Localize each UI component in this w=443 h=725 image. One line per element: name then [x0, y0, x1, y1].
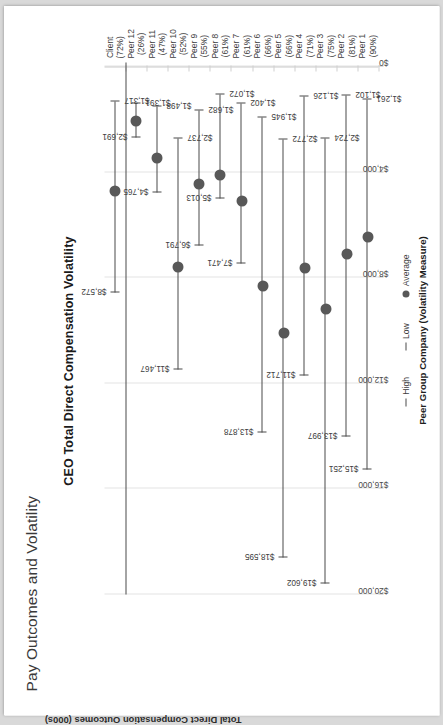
average-marker[interactable] — [278, 327, 289, 338]
low-value-label: $2,724 — [334, 132, 359, 141]
high-value-label: $19,602 — [287, 578, 317, 587]
x-axis-category-label: Peer 1(90%) — [356, 33, 377, 58]
rotated-slide-wrapper: Pay Outcomes and Volatility CEO Total Di… — [4, 6, 439, 715]
chart-plot-area: $20,000$16,000$12,000$8,000$4,000$0$15,2… — [104, 66, 378, 594]
category-volatility: (71%) — [304, 34, 314, 56]
low-cap-marker — [194, 109, 203, 110]
high-cap-marker — [341, 435, 350, 436]
x-axis-category-label: Peer 10(52%) — [167, 29, 188, 58]
category-separator — [273, 65, 274, 71]
grid-line — [104, 382, 378, 383]
average-marker[interactable] — [172, 261, 183, 272]
range-line — [156, 106, 157, 192]
average-marker[interactable] — [130, 115, 141, 126]
category-volatility: (52%) — [177, 32, 187, 54]
category-name: Peer 8 — [209, 33, 219, 58]
legend-item-average[interactable]: Average — [400, 254, 410, 297]
category-name: Peer 11 — [146, 29, 156, 58]
category-separator — [146, 65, 147, 71]
average-marker[interactable] — [109, 185, 120, 196]
x-axis-title: Peer Group Company (Volatility Measure) — [416, 66, 427, 594]
average-marker[interactable] — [341, 248, 352, 259]
low-cap-marker — [110, 100, 119, 101]
low-cap-marker — [215, 93, 224, 94]
low-value-label: $1,682 — [208, 104, 233, 113]
range-line — [345, 95, 346, 435]
legend-label: Low — [400, 323, 410, 339]
category-volatility: (66%) — [262, 34, 272, 56]
average-marker[interactable] — [236, 195, 247, 206]
low-value-label: $1,126 — [313, 90, 338, 99]
range-line — [240, 103, 241, 263]
x-axis-category-label: Peer 6(66%) — [251, 33, 272, 58]
high-cap-marker — [257, 431, 266, 432]
average-marker[interactable] — [320, 303, 331, 314]
average-marker[interactable] — [362, 231, 373, 242]
y-axis-tick-label: $0 — [379, 57, 388, 67]
category-name: Peer 7 — [230, 33, 240, 58]
average-marker[interactable] — [214, 169, 225, 180]
low-value-label: $2,772 — [292, 133, 317, 142]
high-cap-marker — [131, 136, 140, 137]
x-axis-category-label: Peer 7(61%) — [230, 33, 251, 58]
low-value-label: $1,402 — [250, 97, 275, 106]
category-name: Peer 5 — [272, 33, 282, 58]
x-axis-category-label: Peer 4(71%) — [293, 33, 314, 58]
low-cap-marker — [278, 138, 287, 139]
low-cap-marker — [257, 116, 266, 117]
low-cap-marker — [320, 137, 329, 138]
range-line — [366, 99, 367, 468]
average-marker[interactable] — [151, 152, 162, 163]
category-volatility: (66%) — [283, 34, 293, 56]
grid-line — [104, 487, 378, 488]
legend-dash-icon — [405, 342, 406, 350]
x-axis-category-label: Peer 3(75%) — [314, 33, 335, 58]
legend-item-high[interactable]: High — [400, 376, 410, 406]
category-separator — [230, 65, 231, 71]
legend-label: High — [400, 376, 410, 394]
slide: Pay Outcomes and Volatility CEO Total Di… — [4, 6, 439, 715]
y-axis-tick-label: $20,000 — [358, 585, 388, 595]
legend-item-low[interactable]: Low — [400, 323, 410, 351]
category-volatility: (26%) — [135, 32, 145, 54]
low-cap-marker — [173, 137, 182, 138]
average-marker[interactable] — [299, 262, 310, 273]
category-name: Peer 9 — [188, 33, 198, 58]
average-marker[interactable] — [193, 178, 204, 189]
category-volatility: (61%) — [219, 34, 229, 56]
category-separator — [252, 65, 253, 71]
category-name: Peer 10 — [167, 29, 177, 58]
category-volatility: (90%) — [367, 34, 377, 56]
grid-line — [104, 593, 378, 594]
x-axis-category-label: Peer 5(66%) — [272, 33, 293, 58]
x-axis-category-label: Peer 8(61%) — [209, 33, 230, 58]
x-axis-category-label: Peer 12(26%) — [125, 29, 146, 58]
category-separator — [188, 65, 189, 71]
high-cap-marker — [194, 244, 203, 245]
category-volatility: (61%) — [241, 34, 251, 56]
category-name: Peer 12 — [125, 29, 135, 58]
low-value-label: $1,317 — [124, 95, 149, 104]
range-line — [261, 117, 262, 432]
high-cap-marker — [236, 262, 245, 263]
x-axis-category-label: Peer 2(81%) — [335, 33, 356, 58]
range-line — [324, 138, 325, 584]
high-cap-marker — [362, 468, 371, 469]
high-value-label: $18,595 — [245, 551, 275, 560]
high-value-label: $11,712 — [266, 369, 295, 378]
category-separator — [357, 65, 358, 71]
low-value-label: $1,945 — [271, 111, 296, 120]
average-marker[interactable] — [257, 280, 268, 291]
category-name: Peer 3 — [314, 33, 324, 58]
category-name: Peer 6 — [251, 33, 261, 58]
category-separator — [294, 65, 295, 71]
category-separator — [167, 65, 168, 71]
category-name: Client — [104, 36, 114, 57]
client-separator-line — [125, 62, 126, 594]
high-value-label: $15,251 — [329, 463, 359, 472]
legend-label: Average — [400, 254, 410, 286]
document-page: Pay Outcomes and Volatility CEO Total Di… — [4, 6, 439, 715]
y-axis-tick-label: $16,000 — [358, 479, 388, 489]
chart-legend: HighLowAverage — [400, 66, 410, 594]
low-value-label: $1,102 — [355, 89, 380, 98]
